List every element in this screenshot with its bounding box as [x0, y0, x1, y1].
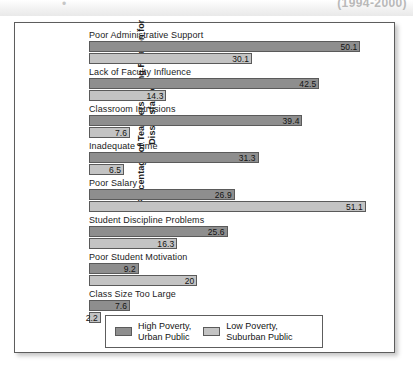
bar-row: 26.9 — [89, 189, 387, 200]
bar-value-label: 2.2 — [86, 313, 98, 324]
category-label: Inadequate Time — [89, 140, 387, 152]
bar-high-poverty[interactable]: 25.6 — [89, 226, 228, 237]
category-label: Student Discipline Problems — [89, 214, 387, 226]
bar-value-label: 39.4 — [283, 116, 300, 127]
legend-swatch-low-poverty — [203, 327, 220, 336]
legend-label: High Poverty,Urban Public — [138, 321, 191, 343]
caption-bullet-icon: • — [62, 0, 66, 11]
bar-group: Lack of Faculty Influence42.514.3 — [89, 66, 387, 101]
bar-value-label: 51.1 — [346, 202, 363, 213]
caption-truncated-text: (1994-2000) — [337, 0, 407, 10]
legend-label-line1: High Poverty, — [138, 321, 191, 331]
bar-value-label: 42.5 — [299, 79, 316, 90]
chart-panel: Percentage of Teachers Giving Reason for… — [14, 22, 395, 353]
bar-row: 7.6 — [89, 300, 387, 311]
bar-row: 16.3 — [89, 238, 387, 249]
bar-row: 50.1 — [89, 41, 387, 52]
bar-low-poverty[interactable]: 2.2 — [89, 312, 101, 323]
bar-high-poverty[interactable]: 31.3 — [89, 152, 259, 163]
legend-item[interactable]: Low Poverty,Suburban Public — [203, 321, 292, 343]
bar-high-poverty[interactable]: 26.9 — [89, 189, 235, 200]
cropped-caption-strip: • (1994-2000) — [0, 0, 413, 16]
category-label: Poor Salary — [89, 177, 387, 189]
bar-low-poverty[interactable]: 14.3 — [89, 90, 166, 101]
bar-row: 51.1 — [89, 201, 387, 212]
bar-high-poverty[interactable]: 39.4 — [89, 115, 302, 126]
bar-row: 42.5 — [89, 78, 387, 89]
bar-group: Classroom Intrusions39.47.6 — [89, 103, 387, 138]
bar-low-poverty[interactable]: 6.5 — [89, 164, 124, 175]
bar-high-poverty[interactable]: 42.5 — [89, 78, 319, 89]
bar-value-label: 31.3 — [239, 153, 256, 164]
bar-group: Poor Administrative Support50.130.1 — [89, 29, 387, 64]
bar-row: 6.5 — [89, 164, 387, 175]
legend-item[interactable]: High Poverty,Urban Public — [115, 321, 191, 343]
bar-row: 31.3 — [89, 152, 387, 163]
bar-value-label: 7.6 — [115, 128, 127, 139]
chart-page: • (1994-2000) Percentage of Teachers Giv… — [0, 0, 413, 371]
bar-high-poverty[interactable]: 9.2 — [89, 263, 139, 274]
bar-value-label: 50.1 — [340, 42, 357, 53]
bar-value-label: 14.3 — [147, 91, 164, 102]
bar-value-label: 16.3 — [157, 239, 174, 250]
bar-group: Inadequate Time31.36.5 — [89, 140, 387, 175]
category-label: Lack of Faculty Influence — [89, 66, 387, 78]
bar-low-poverty[interactable]: 20 — [89, 275, 197, 286]
bar-value-label: 6.5 — [109, 165, 121, 176]
bar-value-label: 25.6 — [208, 227, 225, 238]
plot-area: Poor Administrative Support50.130.1Lack … — [89, 29, 387, 305]
category-label: Classroom Intrusions — [89, 103, 387, 115]
bar-value-label: 26.9 — [215, 190, 232, 201]
category-label: Poor Student Motivation — [89, 251, 387, 263]
bar-row: 25.6 — [89, 226, 387, 237]
bar-value-label: 9.2 — [124, 264, 136, 275]
bar-row: 7.6 — [89, 127, 387, 138]
legend-label-line2: Suburban Public — [226, 332, 292, 342]
bar-low-poverty[interactable]: 7.6 — [89, 127, 130, 138]
bar-low-poverty[interactable]: 16.3 — [89, 238, 177, 249]
category-label: Poor Administrative Support — [89, 29, 387, 41]
bar-low-poverty[interactable]: 51.1 — [89, 201, 366, 212]
bar-low-poverty[interactable]: 30.1 — [89, 53, 252, 64]
bar-group: Poor Student Motivation9.220 — [89, 251, 387, 286]
legend-label: Low Poverty,Suburban Public — [226, 321, 292, 343]
bar-high-poverty[interactable]: 50.1 — [89, 41, 360, 52]
category-label: Class Size Too Large — [89, 288, 387, 300]
legend-label-line1: Low Poverty, — [226, 321, 277, 331]
bar-value-label: 7.6 — [115, 301, 127, 312]
bar-value-label: 20 — [185, 276, 195, 287]
bar-row: 9.2 — [89, 263, 387, 274]
legend-swatch-high-poverty — [115, 327, 132, 336]
bar-row: 39.4 — [89, 115, 387, 126]
bar-row: 20 — [89, 275, 387, 286]
bar-group: Student Discipline Problems25.616.3 — [89, 214, 387, 249]
bar-row: 14.3 — [89, 90, 387, 101]
chart-legend: High Poverty,Urban PublicLow Poverty,Sub… — [105, 315, 323, 348]
bar-group: Poor Salary26.951.1 — [89, 177, 387, 212]
bar-row: 30.1 — [89, 53, 387, 64]
bar-value-label: 30.1 — [232, 54, 249, 65]
legend-label-line2: Urban Public — [138, 332, 190, 342]
bar-high-poverty[interactable]: 7.6 — [89, 300, 130, 311]
